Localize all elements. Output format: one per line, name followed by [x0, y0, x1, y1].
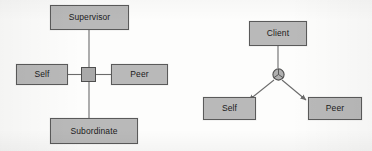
node-peer-left-label: Peer	[130, 70, 148, 79]
node-client[interactable]: Client	[249, 21, 307, 46]
node-self-left-label: Self	[34, 70, 49, 79]
node-subordinate[interactable]: Subordinate	[50, 118, 138, 144]
circle-junction	[272, 68, 285, 81]
node-subordinate-label: Subordinate	[71, 127, 118, 136]
node-peer-left[interactable]: Peer	[111, 64, 168, 85]
hierarchy-diagram: Supervisor Self Peer Subordinate	[0, 0, 186, 151]
node-supervisor[interactable]: Supervisor	[50, 5, 129, 30]
node-self-left[interactable]: Self	[16, 64, 68, 85]
node-self-right-label: Self	[222, 104, 237, 113]
diagram-page: Supervisor Self Peer Subordinate	[0, 0, 372, 151]
node-self-right[interactable]: Self	[203, 97, 256, 120]
node-peer-right-label: Peer	[326, 104, 344, 113]
square-junction	[81, 67, 96, 82]
node-client-label: Client	[267, 29, 289, 38]
node-supervisor-label: Supervisor	[69, 13, 111, 22]
node-peer-right[interactable]: Peer	[308, 97, 362, 120]
client-triad-diagram: Client Self Peer	[186, 0, 372, 151]
